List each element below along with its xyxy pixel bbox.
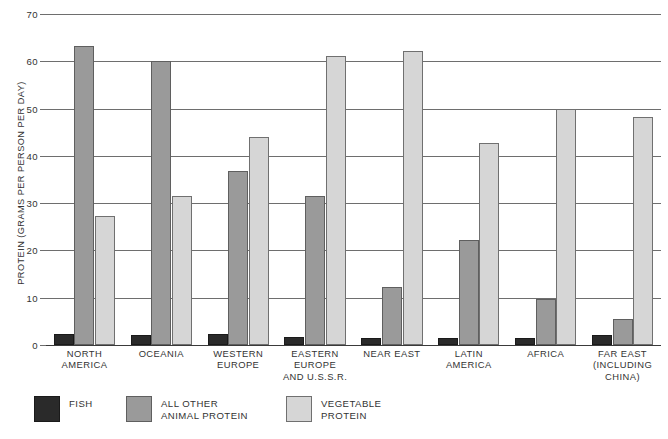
y-tick-label-10: 10 — [27, 292, 38, 303]
x-axis-category-labels: NORTH AMERICAOCEANIAWESTERN EUROPEEASTER… — [46, 348, 661, 396]
bar-animal — [536, 299, 556, 345]
legend-swatch-animal — [126, 396, 152, 422]
bar-group — [277, 14, 354, 345]
bar-fish — [54, 334, 74, 345]
legend-label: ALL OTHER ANIMAL PROTEIN — [161, 396, 248, 421]
bar-animal — [228, 171, 248, 345]
x-axis-label: AFRICA — [507, 348, 584, 359]
bar-animal — [305, 196, 325, 345]
bar-group — [584, 14, 661, 345]
bar-fish — [592, 335, 612, 345]
bar-animal — [151, 61, 171, 345]
bar-fish — [361, 338, 381, 345]
bar-fish — [438, 338, 458, 345]
x-axis-label: FAR EAST (INCLUDING CHINA) — [584, 348, 661, 382]
y-tick-label-40: 40 — [27, 150, 38, 161]
y-tick-label-20: 20 — [27, 245, 38, 256]
protein-consumption-bar-chart: PROTEIN (GRAMS PER PERSON PER DAY) 01020… — [0, 0, 668, 439]
y-tick-label-60: 60 — [27, 56, 38, 67]
bar-group — [123, 14, 200, 345]
bar-vegetable — [95, 216, 115, 345]
bar-vegetable — [249, 137, 269, 345]
bar-vegetable — [326, 56, 346, 345]
y-tick-mark-0 — [40, 345, 46, 346]
bar-group — [200, 14, 277, 345]
y-axis-title: PROTEIN (GRAMS PER PERSON PER DAY) — [16, 38, 26, 328]
bar-vegetable — [172, 196, 192, 345]
legend-label: VEGETABLE PROTEIN — [321, 396, 381, 421]
gridline-0 — [46, 345, 661, 346]
bar-vegetable — [479, 143, 499, 345]
bar-group — [430, 14, 507, 345]
legend-swatch-vegetable — [286, 396, 312, 422]
bar-animal — [74, 46, 94, 345]
y-tick-label-70: 70 — [27, 9, 38, 20]
y-tick-label-0: 0 — [32, 340, 38, 351]
bar-vegetable — [633, 117, 653, 345]
bar-animal — [613, 319, 633, 345]
x-axis-label: NORTH AMERICA — [46, 348, 123, 371]
bar-vegetable — [556, 109, 576, 345]
bar-animal — [382, 287, 402, 345]
x-axis-label: WESTERN EUROPE — [200, 348, 277, 371]
bar-animal — [459, 240, 479, 345]
chart-legend: FISHALL OTHER ANIMAL PROTEINVEGETABLE PR… — [0, 396, 668, 436]
bar-fish — [284, 337, 304, 345]
bar-group — [507, 14, 584, 345]
legend-item[interactable]: ALL OTHER ANIMAL PROTEIN — [126, 396, 248, 422]
legend-item[interactable]: VEGETABLE PROTEIN — [286, 396, 381, 422]
bar-group — [46, 14, 123, 345]
bar-vegetable — [403, 51, 423, 345]
bar-fish — [515, 338, 535, 345]
legend-item[interactable]: FISH — [34, 396, 93, 422]
plot-area: 010203040506070 — [46, 14, 661, 345]
bar-fish — [208, 334, 228, 345]
bar-group — [354, 14, 431, 345]
legend-label: FISH — [69, 396, 93, 410]
y-tick-label-50: 50 — [27, 103, 38, 114]
x-axis-label: NEAR EAST — [354, 348, 431, 359]
x-axis-label: OCEANIA — [123, 348, 200, 359]
bar-fish — [131, 335, 151, 345]
bar-groups — [46, 14, 661, 345]
x-axis-label: EASTERN EUROPE AND U.S.S.R. — [277, 348, 354, 382]
legend-swatch-fish — [34, 396, 60, 422]
x-axis-label: LATIN AMERICA — [430, 348, 507, 371]
y-tick-label-30: 30 — [27, 198, 38, 209]
